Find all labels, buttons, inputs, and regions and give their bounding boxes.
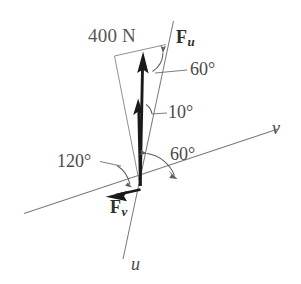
angle-120-leader xyxy=(100,162,121,167)
force-magnitude-label: 400 N xyxy=(88,26,136,45)
force-v-label: Fv xyxy=(110,198,127,218)
force-u-label: Fu xyxy=(176,28,195,48)
angle-arc-60-top xyxy=(153,53,188,73)
parallelogram-side-top xyxy=(115,45,167,57)
force-v-subscript: v xyxy=(121,204,127,219)
force-v-symbol: F xyxy=(110,197,121,217)
axis-label-v: v xyxy=(272,119,280,137)
force-u-symbol: F xyxy=(176,27,187,47)
angle-arc-120 xyxy=(100,162,132,188)
angle-60-top-leader xyxy=(155,70,187,73)
axis-lines xyxy=(24,21,278,259)
angle-label-60-lower: 60° xyxy=(170,145,195,163)
fu-shaft xyxy=(139,107,141,186)
force-u-subscript: u xyxy=(187,34,195,49)
angle-arc-10-curve xyxy=(146,105,152,115)
vector-diagram xyxy=(0,0,301,284)
angle-label-60-top: 60° xyxy=(190,60,215,78)
angle-arc-60-top-curve xyxy=(153,53,164,72)
axis-label-u: u xyxy=(131,255,140,273)
angle-label-10: 10° xyxy=(168,103,193,121)
angle-label-120: 120° xyxy=(57,152,91,170)
v-axis-line xyxy=(24,129,278,214)
angle-arc-10 xyxy=(146,105,167,115)
